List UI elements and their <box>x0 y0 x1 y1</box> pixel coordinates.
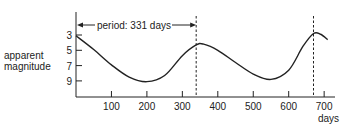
y-axis-label-line1: apparent <box>4 50 44 61</box>
period-annotation: period: 331 days <box>97 20 171 31</box>
y-tick-label: 3 <box>66 30 72 41</box>
x-tick-label: 400 <box>209 101 226 112</box>
x-tick-label: 600 <box>280 101 297 112</box>
x-axis-label: days <box>318 113 339 124</box>
arrowhead-right-icon <box>190 23 196 28</box>
y-tick-label: 5 <box>66 45 72 56</box>
y-tick-label: 7 <box>66 61 72 72</box>
x-tick-label: 200 <box>139 101 156 112</box>
y-tick-label: 9 <box>66 76 72 87</box>
x-tick-label: 700 <box>316 101 333 112</box>
x-tick-label: 300 <box>174 101 191 112</box>
y-axis-label-line2: magnitude <box>4 61 51 72</box>
arrowhead-left-icon <box>77 23 83 28</box>
x-tick-label: 500 <box>245 101 262 112</box>
x-tick-label: 100 <box>103 101 120 112</box>
light-curve-line <box>76 33 328 82</box>
light-curve-chart: 3579 100200300400500600700 period: 331 d… <box>0 0 350 128</box>
